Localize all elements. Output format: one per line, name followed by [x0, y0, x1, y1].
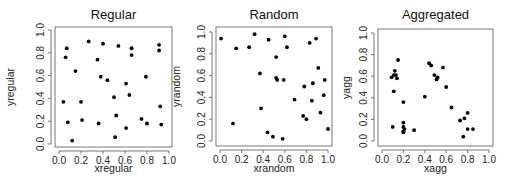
data-point [393, 69, 397, 73]
x-axis-label: xagg [424, 162, 447, 174]
data-point [402, 130, 406, 134]
data-point [394, 73, 398, 77]
y-tick-label: 0.2 [358, 112, 369, 126]
plot-frame [378, 29, 493, 146]
data-point [471, 127, 475, 131]
data-point [461, 135, 465, 139]
y-tick-label: 0.4 [358, 90, 369, 104]
data-point [435, 78, 439, 82]
x-tick-label: 0.8 [461, 154, 475, 165]
data-point [458, 119, 462, 123]
data-point [391, 125, 395, 129]
data-point [423, 95, 427, 99]
data-point [392, 89, 396, 93]
data-point [444, 85, 448, 89]
y-tick-label: 0.8 [358, 47, 369, 61]
y-tick-label: 0.6 [358, 69, 369, 83]
data-point [396, 58, 400, 62]
chart-title: Aggregated [402, 7, 469, 22]
data-point [429, 64, 433, 68]
data-point [462, 116, 466, 120]
y-tick-label: 0.0 [358, 134, 369, 148]
data-point [412, 128, 416, 132]
data-point [450, 106, 454, 110]
data-point [466, 111, 470, 115]
data-point [402, 100, 406, 104]
x-tick-label: 0.0 [375, 154, 389, 165]
x-tick-label: 1.0 [482, 154, 496, 165]
data-point [402, 121, 406, 125]
data-point [466, 127, 470, 131]
scatter-panel-aggregated: Aggregated0.00.20.40.60.81.0xagg0.00.20.… [0, 0, 175, 183]
y-tick-label: 1.0 [358, 26, 369, 40]
y-axis-label: yagg [340, 76, 352, 99]
x-tick-label: 0.2 [396, 154, 410, 165]
data-point [395, 76, 399, 80]
data-point [433, 73, 437, 77]
data-point [441, 66, 445, 70]
